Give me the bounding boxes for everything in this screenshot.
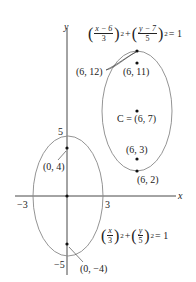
focus-point (135, 61, 138, 64)
y-axis-label: y (64, 22, 68, 32)
diagram-canvas: y x 5 −5 3 −3 (0, 4) (0, −4) (6, 12) (6,… (0, 0, 196, 282)
equation-shifted: ( x − 63 )2 + ( y − 75 )2 = 1 (88, 24, 182, 43)
focus-label: (6, 11) (123, 67, 149, 77)
center-point (65, 194, 68, 197)
vertex-label: (6, 12) (76, 67, 103, 77)
x-axis-label: x (178, 191, 182, 201)
leader-line (69, 247, 83, 262)
focus-point (135, 157, 138, 160)
center-label: C = (6, 7) (117, 114, 156, 124)
tick-label-y-5: −5 (54, 260, 65, 270)
focus-point (65, 242, 68, 245)
focus-point (65, 146, 68, 149)
focus-label: (0, −4) (80, 264, 107, 274)
focus-label: (0, 4) (43, 162, 65, 172)
tick-label-x3: 3 (105, 200, 110, 210)
tick-label-x-3: −3 (17, 200, 28, 210)
tick-label-y5: 5 (58, 127, 63, 137)
vertex-point (135, 169, 138, 172)
equation-origin: ( x3 )2 + ( y5 )2 = 1 (101, 226, 168, 245)
focus-label: (6, 3) (126, 145, 148, 155)
vertex-label: (6, 2) (137, 175, 159, 185)
leader-line (58, 151, 66, 160)
